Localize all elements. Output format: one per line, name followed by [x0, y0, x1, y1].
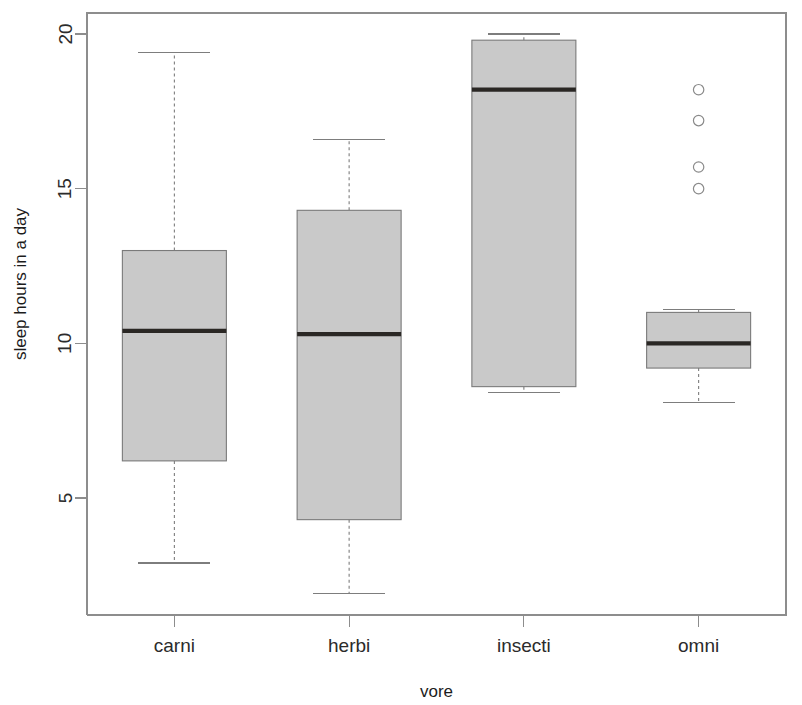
box-iqr-carni [122, 251, 226, 461]
y-tick-label: 5 [55, 493, 76, 504]
x-tick-label-herbi: herbi [328, 635, 370, 656]
box-iqr-herbi [297, 210, 401, 519]
box-iqr-insecti [472, 40, 576, 386]
y-axis: 5101520 [55, 23, 88, 503]
box-series [122, 34, 750, 594]
boxplot-figure: 5101520 carniherbiinsectiomni sleep hour… [0, 0, 802, 705]
x-axis: carniherbiinsectiomni [154, 615, 719, 656]
y-tick-label: 10 [55, 333, 76, 354]
box-group-herbi [297, 139, 401, 594]
x-tick-label-carni: carni [154, 635, 195, 656]
box-group-insecti [472, 34, 576, 393]
box-iqr-omni [647, 312, 751, 368]
x-tick-label-insecti: insecti [497, 635, 551, 656]
x-axis-title: vore [420, 682, 453, 701]
boxplot-canvas: 5101520 carniherbiinsectiomni sleep hour… [0, 0, 802, 705]
box-group-omni [647, 84, 751, 402]
outlier-point [693, 183, 703, 193]
outlier-point [693, 162, 703, 172]
y-tick-label: 15 [55, 178, 76, 199]
outlier-point [693, 115, 703, 125]
box-group-carni [122, 53, 226, 563]
outlier-point [693, 84, 703, 94]
y-tick-label: 20 [55, 23, 76, 44]
x-tick-label-omni: omni [678, 635, 719, 656]
y-axis-title: sleep hours in a day [11, 207, 30, 360]
